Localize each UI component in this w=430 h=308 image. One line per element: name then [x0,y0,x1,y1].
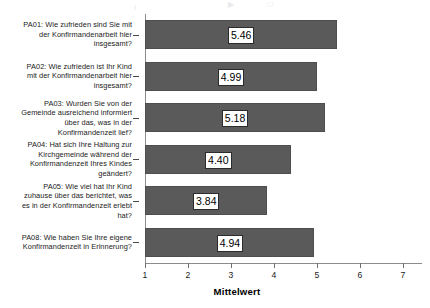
category-tick-dash [133,35,139,36]
category-label-line: PA03: Wurden Sie von der [0,99,132,109]
x-axis-tick-label: 6 [358,270,363,280]
x-axis-tick-label: 2 [186,270,191,280]
x-axis-tick [274,263,275,268]
category-tick-dash [133,159,139,160]
bar-value-label: 3.84 [193,193,219,210]
bar-value-label: 4.94 [217,235,243,252]
x-axis-title: Mittelwert [0,286,430,297]
category-label-line: mit der Konfirmandenarbeit hier [0,71,132,81]
category-label-line: PA04: Hat sich Ihre Haltung zur [0,140,132,150]
x-axis-tick [403,263,404,268]
plot-area: 5.464.995.184.403.844.94 [145,14,422,262]
category-tick-dash [133,201,139,202]
category-label-line: PA08: Wie haben Sie Ihre eigene [0,233,132,243]
category-tick-dash [133,118,139,119]
category-label-line: Konfirmandenzeit Ihres Kindes [0,159,132,169]
category-label-line: PA01: Wie zufrieden sind Sie mit [0,20,132,30]
category-axis-labels: PA01: Wie zufrieden sind Sie mitder Konf… [0,0,139,262]
x-axis-tick [188,263,189,268]
category-label: PA05: Wie viel hat Ihr Kindzuhause über … [0,182,132,220]
x-axis-tick-label: 4 [272,270,277,280]
category-label-line: Konfirmandenzeit lief? [0,128,132,138]
category-label-line: hat? [0,211,132,221]
category-label: PA01: Wie zufrieden sind Sie mitder Konf… [0,20,132,49]
bar-chart: I ▶ □ PA01: Wie zufrieden sind Sie mitde… [0,0,430,308]
x-axis-tick-label: 7 [401,270,406,280]
x-axis-tick [231,263,232,268]
category-label-line: Gemeinde ausreichend informiert [0,108,132,118]
category-label: PA08: Wie haben Sie Ihre eigeneKonfirman… [0,233,132,252]
category-label-line: Konfirmandenzeit in Erinnerung? [0,242,132,252]
x-axis-tick-label: 1 [143,270,148,280]
category-label: PA04: Hat sich Ihre Haltung zurKirchgeme… [0,140,132,178]
bar-value-label: 5.46 [228,27,254,44]
category-tick-dash [133,242,139,243]
category-label-line: PA05: Wie viel hat Ihr Kind [0,182,132,192]
x-axis-tick-label: 3 [229,270,234,280]
x-axis-tick-label: 5 [315,270,320,280]
x-axis-tick [317,263,318,268]
category-label-line: insgesamt? [0,81,132,91]
category-label: PA02: Wie zufrieden ist Ihr Kindmit der … [0,62,132,91]
category-label-line: insgesamt? [0,39,132,49]
artifact-mark-2: ▶ [228,0,234,9]
category-label-line: Kirchgemeinde während der [0,150,132,160]
category-tick-dash [133,76,139,77]
bar-value-label: 4.99 [218,69,244,86]
category-label-line: geändert? [0,169,132,179]
artifact-mark-3: □ [268,0,273,9]
category-label-line: zuhause über das berichtet, was [0,191,132,201]
category-label-line: es in der Konfirmandenzeit erlebt [0,201,132,211]
x-axis-title-text: Mittelwert [214,286,261,297]
bar-value-label: 4.40 [205,152,231,169]
x-axis-tick [360,263,361,268]
bar-value-label: 5.18 [222,110,248,127]
category-label-line: PA02: Wie zufrieden ist Ihr Kind [0,62,132,72]
x-axis-line [145,263,422,264]
category-label-line: über das, was in der [0,118,132,128]
x-axis-tick [145,263,146,268]
category-label: PA03: Wurden Sie von derGemeinde ausreic… [0,99,132,137]
category-label-line: der Konfirmandenarbeit hier [0,30,132,40]
